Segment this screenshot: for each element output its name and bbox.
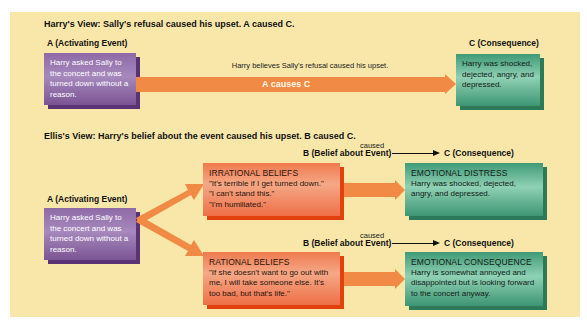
harry-consequence-box: Harry was shocked, dejected, angry, and … [456, 54, 540, 106]
rational-beliefs-box: RATIONAL BELIEFS "If she doesn't want to… [203, 252, 340, 305]
b-to-c-arrow-irrational [344, 183, 395, 197]
caused-line [392, 243, 434, 244]
a-causes-c-label: A causes C [262, 79, 310, 89]
emotional-consequence-title: EMOTIONAL CONSEQUENCE [411, 257, 537, 268]
caused-arrow-icon [433, 150, 440, 156]
irrational-belief-2: "I can't stand this." [209, 189, 334, 200]
irrational-belief-1: "It's terrible if I get turned down." [209, 179, 334, 190]
irrational-c-label: C (Consequence) [444, 148, 514, 158]
emotional-consequence-text: Harry is somewhat annoyed and disappoint… [411, 268, 537, 300]
emotional-distress-text: Harry was shocked, dejected, angry, and … [411, 179, 537, 200]
ellis-activating-event-box: Harry asked Sally to the concert and was… [44, 208, 136, 260]
rational-belief-text: "If she doesn't want to go out with me, … [209, 268, 334, 300]
harry-view-heading: Harry's View: Sally's refusal caused his… [44, 19, 295, 29]
emotional-distress-box: EMOTIONAL DISTRESS Harry was shocked, de… [405, 163, 543, 216]
irrational-caused-label: caused [360, 141, 384, 150]
caused-arrow-icon [433, 240, 440, 246]
harry-c-label: C (Consequence) [469, 38, 539, 48]
ellis-view-heading: Ellis's View: Harry's belief about the e… [44, 131, 356, 141]
arrow-head-icon [445, 74, 456, 94]
harry-a-label: A (Activating Event) [47, 38, 127, 48]
emotional-consequence-box: EMOTIONAL CONSEQUENCE Harry is somewhat … [405, 252, 543, 306]
b-to-c-arrow-rational [344, 272, 395, 286]
irrational-beliefs-title: IRRATIONAL BELIEFS [209, 168, 334, 179]
branch-arrows [130, 160, 210, 280]
irrational-beliefs-box: IRRATIONAL BELIEFS "It's terrible if I g… [203, 163, 340, 216]
rational-beliefs-title: RATIONAL BELIEFS [209, 257, 334, 268]
irrational-belief-3: "I'm humiliated." [209, 200, 334, 211]
emotional-distress-title: EMOTIONAL DISTRESS [411, 168, 537, 179]
rational-caused-label: caused [360, 231, 384, 240]
caused-line [392, 153, 434, 154]
arrow-head-icon [395, 180, 405, 200]
harry-arrow-caption: Harry believes Sally's refusal caused hi… [210, 61, 410, 70]
harry-activating-event-box: Harry asked Sally to the concert and was… [44, 53, 136, 105]
ellis-a-label: A (Activating Event) [47, 194, 127, 204]
rational-c-label: C (Consequence) [444, 238, 514, 248]
arrow-head-icon [395, 269, 405, 289]
